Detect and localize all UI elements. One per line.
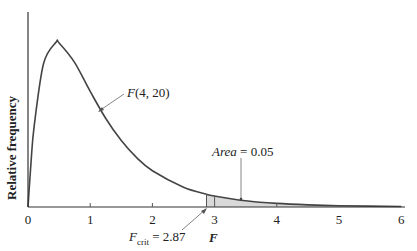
x-tick-label: 2 — [142, 212, 162, 228]
area-label: Area = 0.05 — [212, 145, 273, 158]
x-axis-label: F — [209, 231, 218, 244]
leader-dot-icon — [240, 198, 243, 201]
fcrit-sub: crit — [137, 237, 149, 247]
area-label-word: Area — [212, 144, 237, 159]
y-axis-label: Relative frequency — [4, 96, 20, 200]
fcrit-value: = 2.87 — [149, 229, 186, 244]
fcrit-label: Fcrit = 2.87 — [129, 230, 186, 247]
x-tick-label: 1 — [80, 212, 100, 228]
x-tick-label: 4 — [267, 212, 287, 228]
x-tick-label: 3 — [205, 212, 225, 228]
curve-label-args: (4, 20) — [135, 85, 170, 100]
x-tick-label: 6 — [391, 212, 411, 228]
curve-label: F(4, 20) — [127, 86, 170, 99]
fcrit-f: F — [129, 229, 137, 244]
curve-label-f: F — [127, 85, 135, 100]
x-tick-label: 5 — [329, 212, 349, 228]
x-tick-label: 0 — [18, 212, 38, 228]
area-label-value: = 0.05 — [237, 144, 274, 159]
f-distribution-curve — [28, 40, 401, 207]
